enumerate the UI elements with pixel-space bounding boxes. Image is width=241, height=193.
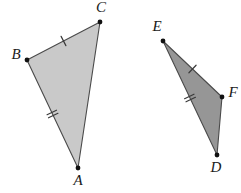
diagram-canvas: A B C D E F [0, 0, 241, 193]
triangle-abc-group: A B C [11, 0, 107, 188]
vertex-dot-f [220, 95, 225, 100]
vertex-dot-e [161, 39, 166, 44]
triangle-abc-shape [27, 22, 100, 168]
triangle-def-shape [163, 41, 222, 155]
vertex-dot-d [215, 153, 220, 158]
vertex-dot-b [25, 58, 30, 63]
vertex-label-c: C [96, 0, 107, 15]
vertex-label-a: A [72, 172, 83, 188]
vertex-label-b: B [11, 46, 20, 62]
geometry-figure: A B C D E F [0, 0, 241, 193]
vertex-label-f: F [227, 84, 238, 100]
vertex-dot-a [76, 166, 81, 171]
triangle-def-group: D E F [151, 18, 238, 175]
vertex-label-e: E [151, 18, 161, 34]
vertex-label-d: D [210, 159, 222, 175]
vertex-dot-c [98, 20, 103, 25]
